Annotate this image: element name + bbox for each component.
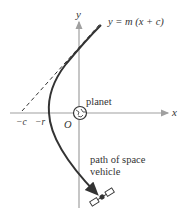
hyperbolic-path-diagram: y x y = m (x + c) planet O −c −r path of… [0,0,188,220]
neg-c-tick-label: −c [16,117,27,127]
asymptote-equation-label: y = m (x + c) [107,16,164,28]
planet-label: planet [86,96,112,107]
neg-r-tick-label: −r [35,117,45,127]
path-label-line2: vehicle [90,166,121,177]
origin-label: O [64,119,72,130]
x-axis-label: x [171,106,177,118]
y-axis-label: y [75,8,81,20]
planet-icon [74,107,87,120]
path-label-line1: path of space [90,154,146,165]
